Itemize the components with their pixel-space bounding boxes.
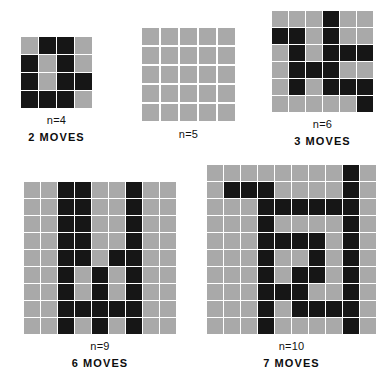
grid-cell: [326, 301, 342, 317]
grid-cell: [207, 301, 223, 317]
grid-cell: [323, 45, 339, 61]
puzzle-grid-4: [19, 35, 94, 110]
grid-cell: [92, 284, 108, 300]
grid-cell: [24, 250, 40, 266]
grid-cell: [272, 28, 288, 44]
grid-cell: [75, 73, 92, 90]
grid-cell: [289, 62, 305, 78]
grid-cell: [41, 250, 57, 266]
grid-cell: [75, 250, 91, 266]
grid-cell: [161, 104, 178, 121]
grid-cell: [143, 182, 159, 198]
grid-cell: [272, 11, 288, 27]
grid-cell: [58, 216, 74, 232]
grid-cell: [199, 47, 216, 64]
grid-cell: [309, 165, 325, 181]
grid-cell: [340, 45, 356, 61]
grid-cell: [58, 301, 74, 317]
grid-cell: [92, 301, 108, 317]
grid-cell: [207, 267, 223, 283]
grid-cell: [57, 73, 74, 90]
grid-cell: [340, 11, 356, 27]
grid-cell: [309, 267, 325, 283]
grid-cell: [275, 301, 291, 317]
grid-cell: [58, 267, 74, 283]
grid-cell: [292, 318, 308, 334]
grid-cell: [275, 284, 291, 300]
grid-cell: [126, 301, 142, 317]
grid-cell: [289, 96, 305, 112]
grid-cell: [326, 233, 342, 249]
grid-cell: [24, 284, 40, 300]
grid-cell: [218, 66, 235, 83]
grid-cell: [143, 284, 159, 300]
grid-cell: [272, 79, 288, 95]
grid-cell: [143, 216, 159, 232]
grid-cell: [241, 233, 257, 249]
grid-cell: [75, 216, 91, 232]
grid-cell: [207, 182, 223, 198]
grid-cell: [199, 66, 216, 83]
grid-cell: [21, 37, 38, 54]
grid-cell: [289, 79, 305, 95]
grid-cell: [323, 96, 339, 112]
grid-cell: [357, 79, 373, 95]
grid-cell: [24, 267, 40, 283]
panel-moves-label: 3 MOVES: [294, 135, 351, 147]
grid-cell: [357, 62, 373, 78]
grid-cell: [218, 47, 235, 64]
grid-cell: [272, 45, 288, 61]
grid-cell: [326, 250, 342, 266]
grid-cell: [75, 182, 91, 198]
grid-cell: [241, 182, 257, 198]
grid-cell: [224, 216, 240, 232]
grid-cell: [75, 91, 92, 108]
grid-cell: [143, 267, 159, 283]
grid-cell: [142, 28, 159, 45]
grid-cell: [258, 318, 274, 334]
grid-cell: [39, 73, 56, 90]
grid-cell: [109, 267, 125, 283]
grid-cell: [326, 318, 342, 334]
grid-cell: [143, 233, 159, 249]
panel-n4: n=42 MOVES: [19, 35, 94, 143]
grid-cell: [241, 199, 257, 215]
grid-cell: [75, 284, 91, 300]
grid-cell: [24, 199, 40, 215]
grid-cell: [275, 267, 291, 283]
grid-cell: [126, 250, 142, 266]
grid-cell: [309, 216, 325, 232]
grid-cell: [21, 91, 38, 108]
grid-cell: [41, 182, 57, 198]
grid-cell: [57, 55, 74, 72]
grid-cell: [275, 250, 291, 266]
grid-cell: [58, 250, 74, 266]
grid-cell: [160, 301, 176, 317]
grid-cell: [224, 284, 240, 300]
grid-cell: [326, 182, 342, 198]
grid-cell: [109, 199, 125, 215]
grid-cell: [326, 216, 342, 232]
grid-cell: [360, 182, 376, 198]
grid-cell: [160, 284, 176, 300]
grid-cell: [126, 216, 142, 232]
panel-order-label: n=10: [279, 340, 305, 352]
grid-cell: [326, 284, 342, 300]
grid-cell: [360, 301, 376, 317]
grid-cell: [360, 233, 376, 249]
grid-cell: [306, 11, 322, 27]
grid-cell: [160, 318, 176, 334]
grid-cell: [360, 165, 376, 181]
grid-cell: [126, 267, 142, 283]
grid-cell: [241, 267, 257, 283]
grid-cell: [180, 28, 197, 45]
grid-cell: [258, 301, 274, 317]
grid-cell: [218, 28, 235, 45]
grid-cell: [309, 182, 325, 198]
figure-container: n=42 MOVESn=5n=63 MOVESn=96 MOVESn=107 M…: [0, 0, 386, 369]
grid-cell: [224, 267, 240, 283]
grid-cell: [160, 250, 176, 266]
grid-cell: [343, 216, 359, 232]
grid-cell: [58, 233, 74, 249]
grid-cell: [357, 96, 373, 112]
